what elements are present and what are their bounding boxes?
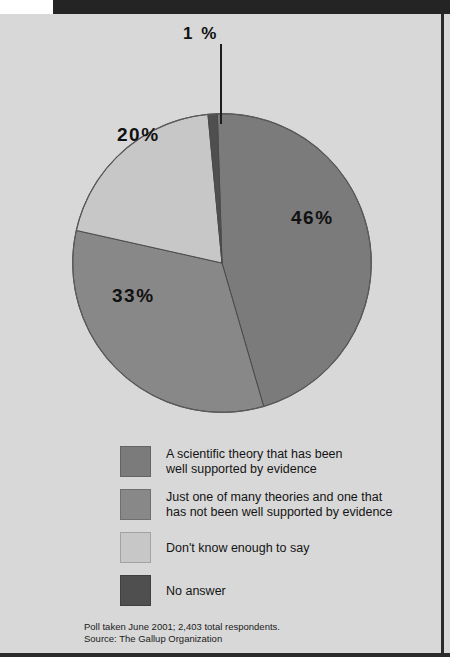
chart-page: 1 % 20% 46% 33% A scientific theory that… — [0, 0, 450, 667]
legend-label: Don't know enough to say — [166, 532, 309, 556]
legend-label-line-2: well supported by evidence — [166, 462, 343, 477]
below-rule-gutter — [0, 657, 450, 667]
legend-swatch — [120, 532, 151, 563]
pie-chart-svg — [72, 113, 372, 413]
legend-swatch — [120, 446, 151, 477]
legend-label-line-1: A scientific theory that has been — [166, 447, 343, 461]
source-line-1: Poll taken June 2001; 2,403 total respon… — [84, 621, 280, 633]
pie-slice-group — [73, 114, 372, 413]
legend-item: Don't know enough to say — [120, 532, 420, 565]
legend-label: Just one of many theories and one thatha… — [166, 489, 393, 520]
legend-label-line-1: No answer — [166, 584, 226, 598]
legend-swatch — [120, 575, 151, 606]
pie-label-scientific-theory: 46% — [291, 207, 334, 229]
legend-label-line-1: Just one of many theories and one that — [166, 490, 382, 504]
legend-swatch — [120, 489, 151, 520]
legend-item: No answer — [120, 575, 420, 608]
pie-label-no-answer: 1 % — [183, 24, 218, 44]
legend-label-line-1: Don't know enough to say — [166, 541, 309, 555]
legend-label: A scientific theory that has beenwell su… — [166, 446, 343, 477]
pie-label-one-of-many: 33% — [112, 285, 155, 307]
legend-label: No answer — [166, 575, 226, 599]
source-line-2: Source: The Gallup Organization — [84, 633, 280, 645]
legend-item: A scientific theory that has beenwell su… — [120, 446, 420, 479]
top-left-gutter — [0, 0, 53, 14]
top-accent-bar — [53, 0, 450, 14]
source-note: Poll taken June 2001; 2,403 total respon… — [84, 621, 280, 645]
pie-label-dont-know: 20% — [117, 124, 160, 146]
legend: A scientific theory that has beenwell su… — [120, 446, 420, 618]
legend-label-line-2: has not been well supported by evidence — [166, 505, 393, 520]
callout-leader-line — [220, 44, 222, 124]
legend-item: Just one of many theories and one thatha… — [120, 489, 420, 522]
pie-chart — [72, 113, 372, 413]
right-border-rule — [441, 14, 444, 656]
